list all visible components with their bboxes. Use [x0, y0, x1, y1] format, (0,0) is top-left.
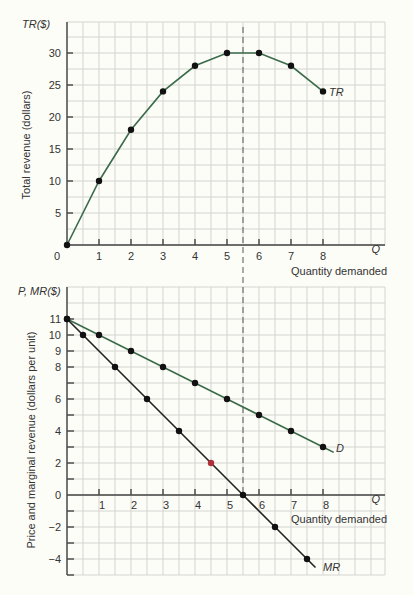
- tr-point: [224, 50, 230, 56]
- y-tick-label: 10: [49, 329, 61, 341]
- x-tick-label: 6: [259, 499, 265, 511]
- demand-point: [288, 428, 294, 434]
- bottom-y-short-label: P, MR($): [18, 285, 61, 297]
- y-tick-label: 0: [55, 489, 61, 501]
- x-tick-label: 4: [192, 250, 198, 262]
- tr-point: [160, 88, 166, 94]
- mr-point: [208, 460, 214, 466]
- mr-point: [304, 556, 310, 562]
- tr-curve-label: TR: [329, 86, 344, 98]
- demand-point: [256, 412, 262, 418]
- y-tick-label: 4: [55, 425, 61, 437]
- tr-point: [64, 242, 70, 248]
- x-tick-label: 5: [224, 250, 230, 262]
- y-tick-label: −4: [48, 553, 61, 565]
- axis-ticks: 0123456785101520253012345678−4−202468910…: [48, 47, 329, 575]
- mr-point: [144, 396, 150, 402]
- tr-point: [320, 88, 326, 94]
- chart-canvas: 0123456785101520253012345678−4−202468910…: [0, 0, 413, 595]
- y-tick-label: 10: [49, 175, 61, 187]
- demand-point: [128, 348, 134, 354]
- mr-point: [272, 524, 278, 530]
- mr-point: [80, 332, 86, 338]
- x-tick-label: 7: [288, 250, 294, 262]
- bottom-chart-grid: [67, 287, 385, 575]
- mr-curve-label: MR: [323, 561, 340, 573]
- x-tick-label: 3: [160, 250, 166, 262]
- mr-point: [176, 428, 182, 434]
- data-series: [64, 50, 334, 568]
- mr-point: [64, 316, 70, 322]
- x-tick-label: 1: [99, 499, 105, 511]
- x-tick-label: 2: [131, 499, 137, 511]
- x-tick-label: 4: [195, 499, 201, 511]
- tr-point: [192, 63, 198, 69]
- y-tick-label: 5: [55, 207, 61, 219]
- demand-point: [96, 332, 102, 338]
- y-tick-label: 8: [55, 361, 61, 373]
- x-tick-label: 8: [323, 499, 329, 511]
- y-tick-label: 11: [50, 313, 61, 325]
- top-x-axis-title: Quantity demanded: [291, 265, 387, 277]
- y-tick-label: −2: [48, 521, 61, 533]
- mr-point: [112, 364, 118, 370]
- x-tick-label: 8: [320, 250, 326, 262]
- bottom-x-short-label: Q: [371, 493, 380, 505]
- x-tick-label: 6: [256, 250, 262, 262]
- x-tick-label: 7: [291, 499, 297, 511]
- bottom-x-axis-title: Quantity demanded: [291, 513, 387, 525]
- mr-line: [67, 319, 315, 567]
- y-tick-label: 6: [55, 393, 61, 405]
- tr-mr-figure: 0123456785101520253012345678−4−202468910…: [0, 0, 413, 595]
- mr-point: [240, 492, 246, 498]
- x-tick-label: 3: [163, 499, 169, 511]
- x-tick-label: 2: [128, 250, 134, 262]
- demand-curve-label: D: [336, 442, 344, 454]
- top-y-axis-title: Total revenue (dollars): [20, 91, 32, 200]
- demand-point: [224, 396, 230, 402]
- y-tick-label: 15: [49, 143, 61, 155]
- demand-point: [320, 444, 326, 450]
- y-tick-label: 2: [55, 457, 61, 469]
- x-tick-label: 0: [54, 250, 60, 262]
- bottom-y-axis-title: Price and marginal revenue (dollars per …: [25, 331, 37, 548]
- top-y-short-label: TR($): [22, 18, 50, 30]
- x-tick-label: 5: [227, 499, 233, 511]
- y-tick-label: 9: [55, 345, 61, 357]
- y-tick-label: 30: [49, 47, 61, 59]
- y-tick-label: 25: [49, 79, 61, 91]
- y-tick-label: 20: [49, 111, 61, 123]
- x-tick-label: 1: [96, 250, 102, 262]
- demand-point: [160, 364, 166, 370]
- top-x-short-label: Q: [371, 243, 380, 255]
- tr-point: [256, 50, 262, 56]
- demand-point: [192, 380, 198, 386]
- tr-point: [288, 63, 294, 69]
- tr-point: [96, 178, 102, 184]
- tr-point: [128, 127, 134, 133]
